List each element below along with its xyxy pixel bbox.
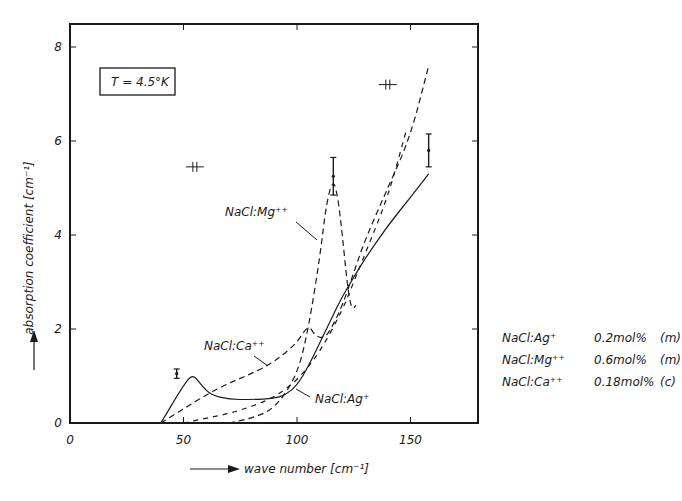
error-bars [174, 80, 432, 379]
svg-text:absorption coefficient [cm⁻¹]: absorption coefficient [cm⁻¹] [22, 161, 36, 335]
curve-label-mg: NaCl:Mg⁺⁺ [225, 205, 288, 219]
temperature-label: T = 4.5°K [111, 75, 170, 89]
y-tick-label: 2 [54, 322, 62, 336]
axis-tick-labels: 05010015002468 [54, 40, 422, 447]
x-tick-label: 0 [66, 433, 74, 447]
curve-line [161, 174, 429, 423]
legend-item: NaCl:Ca⁺⁺0.18mol%(c) [502, 371, 681, 393]
legend: NaCl:Ag⁺0.2mol%(m) NaCl:Mg⁺⁺0.6mol%(m) N… [502, 327, 681, 393]
leader-ag [296, 389, 310, 397]
y-tick-label: 6 [54, 134, 62, 148]
curve-line [229, 184, 356, 423]
y-axis-arrow [30, 330, 38, 370]
curve-line [184, 132, 406, 423]
leader-mg [296, 222, 317, 240]
legend-method: (m) [660, 349, 681, 371]
x-tick-label: 50 [176, 433, 192, 447]
curve-line [161, 66, 429, 423]
legend-name: NaCl:Ag⁺ [502, 327, 594, 349]
legend-conc: 0.18mol% [594, 371, 660, 393]
legend-name: NaCl:Ca⁺⁺ [502, 371, 594, 393]
y-tick-label: 8 [54, 40, 62, 54]
legend-method: (m) [660, 327, 681, 349]
y-tick-label: 4 [54, 228, 62, 242]
legend-conc: 0.2mol% [594, 327, 660, 349]
y-tick-label: 0 [54, 416, 62, 430]
x-tick-label: 100 [286, 433, 309, 447]
legend-name: NaCl:Mg⁺⁺ [502, 349, 594, 371]
leader-ca [254, 356, 268, 366]
absorption-chart: 05010015002468 T = 4.5°K NaCl:Mg⁺⁺ NaCl:… [0, 0, 682, 501]
legend-conc: 0.6mol% [594, 349, 660, 371]
curve-label-ag: NaCl:Ag⁺ [315, 392, 369, 406]
legend-method: (c) [660, 371, 676, 393]
legend-item: NaCl:Mg⁺⁺0.6mol%(m) [502, 349, 681, 371]
x-axis-arrow [190, 465, 240, 473]
curves [161, 66, 429, 423]
x-axis-label: wave number [cm⁻¹] [244, 462, 369, 476]
curve-label-ca: NaCl:Ca⁺⁺ [204, 339, 265, 353]
legend-item: NaCl:Ag⁺0.2mol%(m) [502, 327, 681, 349]
y-axis-label: absorption coefficient [cm⁻¹] [22, 161, 36, 335]
x-tick-label: 150 [399, 433, 422, 447]
